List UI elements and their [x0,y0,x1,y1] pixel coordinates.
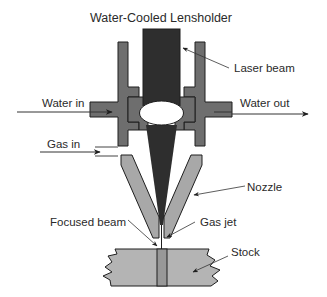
lensholder-right [184,42,232,146]
label-water-in: Water in [42,98,84,110]
label-nozzle: Nozzle [247,182,282,194]
label-gas-jet: Gas jet [200,217,236,229]
lens [140,101,184,125]
label-laser-beam: Laser beam [234,63,295,75]
label-water-out: Water out [240,98,289,110]
label-stock: Stock [231,247,260,259]
lensholder-left [90,42,139,146]
laser-beam-column [143,29,180,109]
label-gas-in: Gas in [47,139,80,151]
label-focused-beam: Focused beam [50,217,126,229]
diagram-title: Water-Cooled Lensholder [90,12,232,25]
kerf [157,249,167,286]
